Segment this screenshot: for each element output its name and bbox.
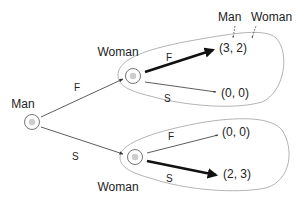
payoff-header-woman: Woman xyxy=(251,10,292,24)
branch-man-s xyxy=(41,127,123,154)
branch-man-f xyxy=(41,79,123,117)
branch-lower-f-label: F xyxy=(168,131,174,142)
payoff-fs: (0, 0) xyxy=(221,86,249,100)
payoff-ss: (2, 3) xyxy=(223,167,251,181)
root-node-man xyxy=(25,115,40,130)
payoff-sf: (0, 0) xyxy=(222,125,250,139)
payoff-header-man: Man xyxy=(218,10,241,24)
branch-upper-f-label: F xyxy=(166,52,172,63)
branch-man-s-label: S xyxy=(72,151,79,162)
branch-lower-s-label: S xyxy=(166,173,173,184)
header-pointer-man xyxy=(233,26,235,38)
upper-node-woman xyxy=(126,69,141,84)
branch-lower-s xyxy=(147,161,216,175)
lower-subgame-balloon xyxy=(120,119,289,191)
upper-subgame-balloon xyxy=(118,32,284,106)
branch-upper-s xyxy=(145,82,216,92)
branch-upper-s-label: S xyxy=(164,93,171,104)
branch-upper-f xyxy=(145,50,213,72)
payoff-ff: (3, 2) xyxy=(219,41,247,55)
root-node-label: Man xyxy=(11,97,34,111)
lower-node-woman xyxy=(128,150,143,165)
branch-lower-f xyxy=(147,135,218,153)
lower-node-label: Woman xyxy=(97,180,138,194)
branch-man-f-label: F xyxy=(74,82,80,93)
game-tree-diagram: Man F S Woman F S (3, 2) (0, 0) Woman F … xyxy=(0,0,304,205)
upper-node-label: Woman xyxy=(97,45,138,59)
